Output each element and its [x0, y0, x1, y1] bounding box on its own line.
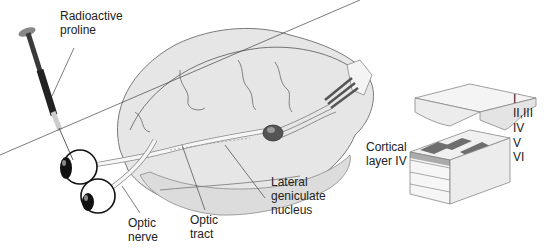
layer-label-vi: VI [513, 150, 524, 164]
brain [117, 28, 373, 215]
lgn [263, 125, 283, 141]
label-lgn: Lateral geniculate nucleus [271, 175, 326, 217]
eye-uninjected [81, 179, 115, 213]
label-radioactive-proline: Radioactive proline [60, 9, 123, 37]
eye-injected [60, 150, 97, 184]
layer-label-iv: IV [513, 121, 524, 135]
layer-label-v: V [513, 136, 521, 150]
label-optic-tract: Optic tract [190, 213, 218, 241]
syringe-icon [17, 25, 73, 160]
label-optic-nerve: Optic nerve [128, 216, 158, 244]
layer-label-i: I [513, 92, 516, 106]
label-cortical-layer-iv: Cortical layer IV [366, 140, 407, 168]
layer-label-ii-iii: II,III [513, 106, 533, 120]
